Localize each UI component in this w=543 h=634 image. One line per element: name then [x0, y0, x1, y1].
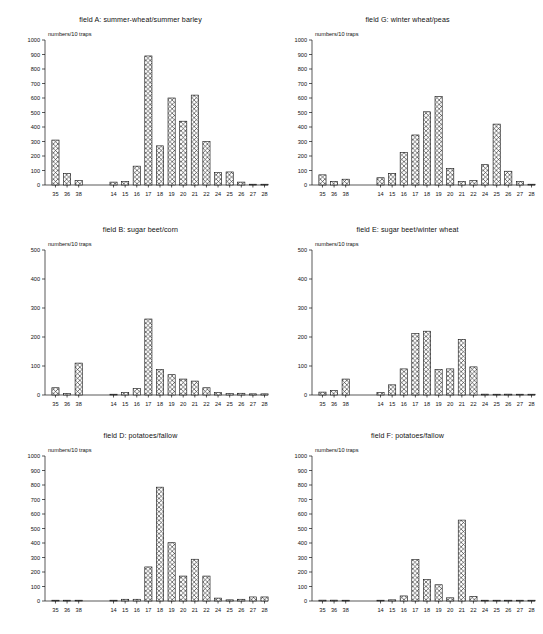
x-tick-label: 17	[145, 191, 151, 197]
x-tick-label: 21	[192, 607, 198, 613]
y-tick-label: 1000	[295, 37, 307, 43]
y-tick-label: 200	[31, 153, 40, 159]
x-tick-label: 27	[517, 607, 523, 613]
x-tick-label: 18	[424, 607, 430, 613]
y-axis-label-field-d: numbers/10 traps	[48, 447, 92, 453]
bar-field-b-36	[63, 394, 70, 395]
chart-panel-field-b: field B: sugar beet/corn0100200300400500…	[5, 222, 276, 433]
y-tick-label: 500	[31, 247, 40, 253]
y-tick-label: 900	[31, 468, 40, 474]
x-tick-label: 15	[122, 191, 128, 197]
x-tick-label: 15	[389, 607, 395, 613]
bar-field-e-27	[516, 394, 523, 395]
x-tick-label: 18	[424, 401, 430, 407]
x-tick-label: 38	[76, 401, 82, 407]
bar-field-b-28	[261, 394, 268, 395]
bar-field-g-19	[435, 97, 442, 185]
x-tick-label: 19	[435, 191, 441, 197]
x-tick-label: 16	[134, 401, 140, 407]
chart-canvas-field-e: 0100200300400500353638141516171819202122…	[272, 222, 543, 433]
y-tick-label: 600	[31, 511, 40, 517]
bar-field-b-18	[156, 369, 163, 395]
chart-title-field-g: field G: winter wheat/peas	[272, 16, 543, 24]
bar-field-f-25	[493, 600, 500, 601]
x-tick-label: 20	[447, 401, 453, 407]
bar-field-g-36	[330, 181, 337, 185]
y-tick-label: 200	[298, 334, 307, 340]
x-tick-label: 38	[76, 607, 82, 613]
y-axis-label-field-a: numbers/10 traps	[48, 31, 92, 37]
x-tick-label: 24	[482, 191, 488, 197]
x-tick-label: 14	[377, 401, 383, 407]
x-tick-label: 21	[459, 401, 465, 407]
bar-field-d-16	[133, 599, 140, 601]
x-tick-label: 28	[528, 191, 534, 197]
chart-canvas-field-a: 0100200300400500600700800900100035363814…	[5, 12, 276, 223]
bar-field-a-24	[214, 173, 221, 185]
bar-field-b-17	[145, 319, 152, 395]
bar-field-a-16	[133, 166, 140, 185]
x-tick-label: 25	[227, 401, 233, 407]
bar-field-a-18	[156, 146, 163, 185]
chart-title-field-d: field D: potatoes/fallow	[5, 432, 276, 440]
bar-field-b-24	[214, 393, 221, 395]
y-tick-label: 0	[304, 182, 307, 188]
chart-title-field-f: field F: potatoes/fallow	[272, 432, 543, 440]
bar-field-f-35	[319, 600, 326, 601]
x-tick-label: 20	[447, 191, 453, 197]
bar-field-d-20	[180, 576, 187, 601]
bar-field-g-28	[528, 184, 535, 185]
chart-canvas-field-b: 0100200300400500353638141516171819202122…	[5, 222, 276, 433]
x-tick-label: 36	[331, 607, 337, 613]
y-tick-label: 700	[31, 81, 40, 87]
x-tick-label: 25	[227, 191, 233, 197]
x-tick-label: 35	[319, 607, 325, 613]
y-tick-label: 400	[298, 276, 307, 282]
x-tick-label: 15	[122, 401, 128, 407]
x-tick-label: 38	[343, 401, 349, 407]
bar-field-b-15	[122, 393, 129, 395]
x-tick-label: 35	[319, 191, 325, 197]
y-tick-label: 400	[31, 276, 40, 282]
x-tick-label: 17	[412, 191, 418, 197]
bar-field-e-28	[528, 394, 535, 395]
y-tick-label: 0	[304, 392, 307, 398]
y-tick-label: 500	[298, 247, 307, 253]
bar-field-f-38	[342, 600, 349, 601]
x-tick-label: 38	[343, 191, 349, 197]
x-tick-label: 38	[343, 607, 349, 613]
bar-field-b-35	[52, 388, 59, 395]
bar-field-d-24	[214, 598, 221, 601]
x-tick-label: 36	[64, 401, 70, 407]
bar-field-f-36	[330, 600, 337, 601]
bar-field-f-21	[458, 520, 465, 601]
x-tick-label: 26	[238, 607, 244, 613]
x-tick-label: 17	[412, 401, 418, 407]
chart-canvas-field-g: 0100200300400500600700800900100035363814…	[272, 12, 543, 223]
x-tick-label: 26	[505, 191, 511, 197]
x-tick-label: 22	[203, 401, 209, 407]
y-tick-label: 700	[298, 497, 307, 503]
bar-field-d-17	[145, 567, 152, 601]
y-tick-label: 100	[298, 168, 307, 174]
x-tick-label: 25	[494, 607, 500, 613]
bar-field-g-24	[481, 165, 488, 185]
bar-field-a-20	[180, 121, 187, 185]
x-tick-label: 22	[470, 401, 476, 407]
bar-field-e-14	[377, 393, 384, 395]
y-tick-label: 1000	[295, 453, 307, 459]
y-tick-label: 100	[31, 363, 40, 369]
x-tick-label: 18	[424, 191, 430, 197]
bar-field-b-21	[191, 381, 198, 395]
y-tick-label: 800	[31, 482, 40, 488]
x-tick-label: 22	[203, 607, 209, 613]
y-tick-label: 1000	[28, 453, 40, 459]
y-tick-label: 800	[298, 66, 307, 72]
y-tick-label: 600	[31, 95, 40, 101]
y-tick-label: 900	[298, 468, 307, 474]
x-tick-label: 27	[250, 401, 256, 407]
bar-field-a-17	[145, 56, 152, 185]
bar-field-f-26	[505, 600, 512, 601]
y-tick-label: 900	[31, 52, 40, 58]
x-tick-label: 20	[180, 191, 186, 197]
